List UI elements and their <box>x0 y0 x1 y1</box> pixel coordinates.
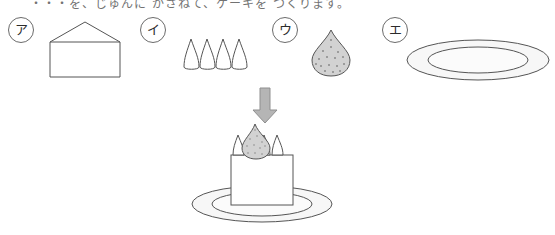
cream-puff-row <box>179 34 251 72</box>
down-arrow-shape <box>253 88 277 123</box>
choice-label-i: イ <box>140 17 166 43</box>
assembly-strawberry <box>242 124 270 159</box>
worksheet-canvas: ・・・を、じゅんに かさねて、ケーキを つくります。 ア イ ウ <box>0 0 555 235</box>
strawberry-single <box>309 27 355 79</box>
choice-label-e-text: エ <box>389 22 402 37</box>
choice-label-u: ウ <box>272 17 298 43</box>
down-arrow <box>250 86 280 126</box>
plate-single <box>405 36 553 86</box>
choice-label-i-text: イ <box>147 22 160 37</box>
assembly-cake-body <box>231 155 293 205</box>
assembly-cream-puff-4 <box>272 135 283 155</box>
choice-label-a-text: ア <box>15 22 28 37</box>
cream-puff-4 <box>232 39 247 69</box>
choice-label-u-text: ウ <box>279 22 292 37</box>
choice-label-a: ア <box>8 17 34 43</box>
plate-inner-ellipse <box>428 47 528 73</box>
assembled-cake <box>188 122 340 232</box>
strawberry-body <box>312 30 350 76</box>
clipped-instruction-text: ・・・を、じゅんに かさねて、ケーキを つくります。 <box>30 0 350 11</box>
cream-puff-3 <box>216 39 231 69</box>
cream-puff-2 <box>200 39 215 69</box>
sponge-cake-block <box>48 20 126 80</box>
cake-block-outline <box>50 22 120 77</box>
cream-puff-1 <box>184 39 199 69</box>
